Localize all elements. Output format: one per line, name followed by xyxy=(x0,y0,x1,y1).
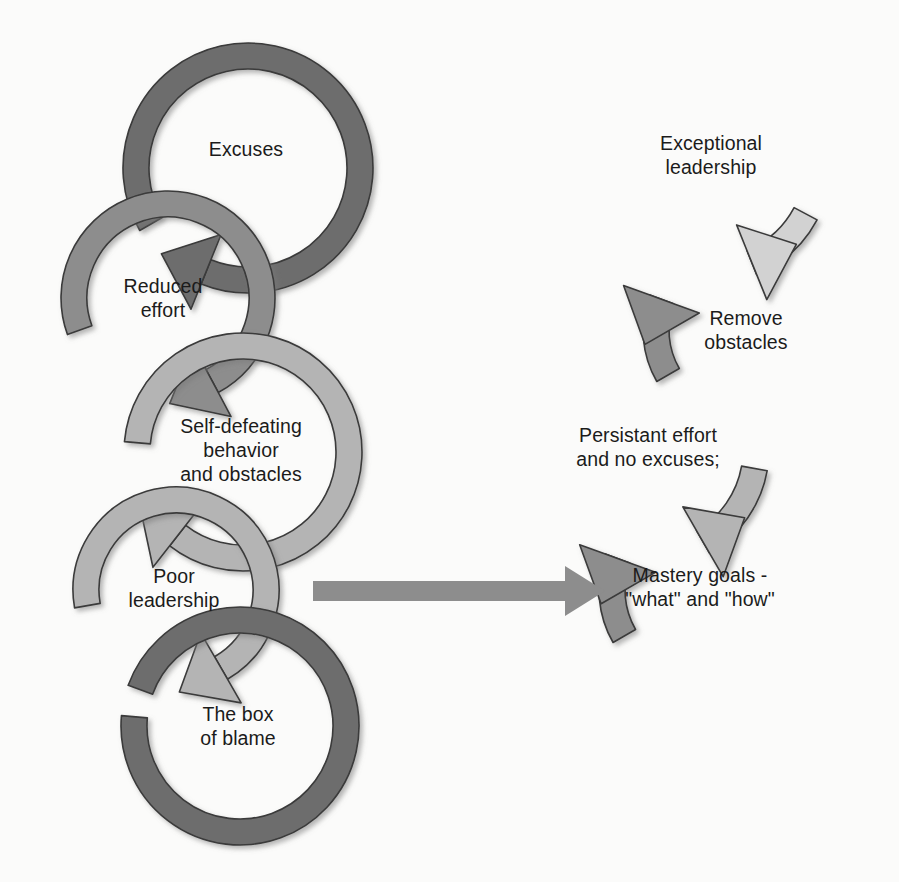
ring-arrowhead-remove-obstacles xyxy=(624,285,700,344)
transition-arrow-shape xyxy=(313,566,605,616)
cycle-diagram-graphic xyxy=(0,0,899,882)
transition-arrow xyxy=(313,566,605,616)
ring-arrowhead-persistant-effort xyxy=(683,507,745,577)
cycle-rings xyxy=(61,43,817,845)
cycle-ring-persistant-effort xyxy=(683,466,767,577)
cycle-ring-remove-obstacles xyxy=(624,285,700,381)
cycle-ring-exceptional-leadership xyxy=(737,208,817,300)
diagram-canvas: ExcusesReduced effortSelf-defeating beha… xyxy=(0,0,899,882)
